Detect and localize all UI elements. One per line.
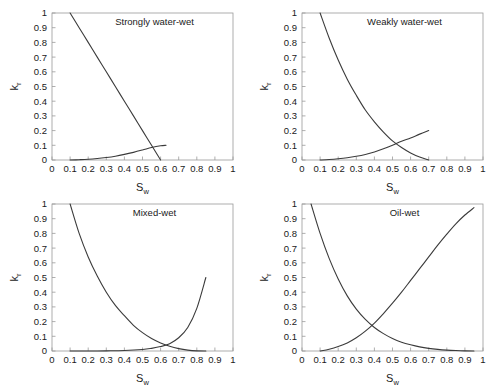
x-tick-label: 1 [230,163,235,174]
x-tick-label: 0.7 [422,354,435,365]
x-tick-label: 0.8 [190,163,203,174]
y-tick-label: 0.4 [284,96,297,107]
curve-oil-relative-permeability [320,13,429,160]
y-tick-label: 1 [292,7,297,18]
x-tick-label: 1 [230,354,235,365]
y-tick-label: 0.2 [284,125,297,136]
panel-oil-wet: 00.10.20.30.40.50.60.70.80.9100.10.20.30… [250,191,499,386]
y-tick-label: 0.7 [284,52,297,63]
x-tick-label: 0 [299,163,304,174]
y-tick-label: 0.2 [34,125,47,136]
x-tick-label: 0.3 [350,163,363,174]
y-tick-label: 0.5 [284,272,297,283]
panel-weakly-water-wet: 00.10.20.30.40.50.60.70.80.9100.10.20.30… [250,0,499,195]
x-tick-label: 0.1 [63,163,76,174]
x-tick-label: 1 [480,354,485,365]
y-tick-label: 0.1 [34,331,47,342]
x-tick-label: 0.4 [118,354,131,365]
chart-3: 00.10.20.30.40.50.60.70.80.9100.10.20.30… [0,191,249,386]
y-tick-label: 0.2 [284,316,297,327]
y-tick-label: 0 [42,154,47,165]
x-tick-label: 0.5 [136,163,149,174]
y-tick-label: 1 [42,7,47,18]
y-tick-label: 0.5 [284,81,297,92]
y-tick-label: 0.9 [34,213,47,224]
x-tick-label: 0.7 [172,163,185,174]
curve-oil-relative-permeability [70,13,161,160]
x-tick-label: 0.8 [190,354,203,365]
x-tick-label: 0.9 [208,354,221,365]
x-tick-label: 0.2 [82,354,95,365]
y-tick-label: 0.1 [34,140,47,151]
panel-title: Weakly water-wet [367,16,442,27]
y-tick-label: 0.8 [34,37,47,48]
y-tick-label: 0.9 [34,22,47,33]
x-tick-label: 1 [480,163,485,174]
y-tick-label: 0.7 [34,243,47,254]
y-tick-label: 0.3 [284,110,297,121]
y-axis-title: kr [258,273,273,282]
y-tick-label: 0.4 [34,96,47,107]
chart-1: 00.10.20.30.40.50.60.70.80.9100.10.20.30… [0,0,249,195]
x-tick-label: 0.4 [368,163,381,174]
x-tick-label: 0 [49,163,54,174]
y-tick-label: 0.6 [34,66,47,77]
chart-2: 00.10.20.30.40.50.60.70.80.9100.10.20.30… [250,0,499,195]
x-tick-label: 0.4 [118,163,131,174]
y-tick-label: 0.8 [284,228,297,239]
y-tick-label: 1 [42,198,47,209]
y-axis-title: kr [8,273,23,282]
x-tick-label: 0.6 [154,354,167,365]
x-tick-label: 0.3 [350,354,363,365]
x-tick-label: 0 [49,354,54,365]
x-tick-label: 0.9 [458,163,471,174]
x-tick-label: 0.2 [332,163,345,174]
y-tick-label: 0.3 [34,110,47,121]
y-tick-label: 0.8 [284,37,297,48]
x-axis-title: Sw [136,372,149,386]
x-tick-label: 0.1 [313,163,326,174]
y-tick-label: 0.5 [34,81,47,92]
y-tick-label: 0.4 [284,287,297,298]
x-tick-label: 0.3 [100,163,113,174]
x-axis-title: Sw [386,372,399,386]
y-tick-label: 0.6 [34,257,47,268]
y-tick-label: 0.3 [34,301,47,312]
y-axis-title: kr [8,82,23,91]
plot-frame [302,13,483,160]
x-tick-label: 0.6 [404,354,417,365]
x-tick-label: 0.9 [458,354,471,365]
x-tick-label: 0.1 [63,354,76,365]
x-tick-label: 0.5 [386,354,399,365]
y-tick-label: 0 [292,154,297,165]
y-tick-label: 0.3 [284,301,297,312]
y-tick-label: 0 [292,345,297,356]
curve-water-relative-permeability [320,131,429,160]
curve-oil-relative-permeability [311,204,474,351]
x-tick-label: 0.7 [422,163,435,174]
x-tick-label: 0.1 [313,354,326,365]
x-tick-label: 0.2 [82,163,95,174]
panel-mixed-wet: 00.10.20.30.40.50.60.70.80.9100.10.20.30… [0,191,249,386]
y-tick-label: 0.1 [284,331,297,342]
panel-strongly-water-wet: 00.10.20.30.40.50.60.70.80.9100.10.20.30… [0,0,249,195]
y-tick-label: 0 [42,345,47,356]
x-tick-label: 0.6 [404,163,417,174]
panel-title: Strongly water-wet [115,16,194,27]
plot-frame [302,204,483,351]
x-tick-label: 0.8 [440,354,453,365]
relative-permeability-figure: 00.10.20.30.40.50.60.70.80.9100.10.20.30… [0,0,499,391]
x-tick-label: 0.3 [100,354,113,365]
panel-title: Oil-wet [390,207,420,218]
curve-water-relative-permeability [70,145,166,160]
y-tick-label: 0.8 [34,228,47,239]
y-tick-label: 0.6 [284,257,297,268]
y-tick-label: 0.2 [34,316,47,327]
plot-frame [52,13,233,160]
x-tick-label: 0.4 [368,354,381,365]
x-tick-label: 0.5 [386,163,399,174]
x-tick-label: 0.7 [172,354,185,365]
y-tick-label: 1 [292,198,297,209]
y-tick-label: 0.9 [284,22,297,33]
y-tick-label: 0.5 [34,272,47,283]
